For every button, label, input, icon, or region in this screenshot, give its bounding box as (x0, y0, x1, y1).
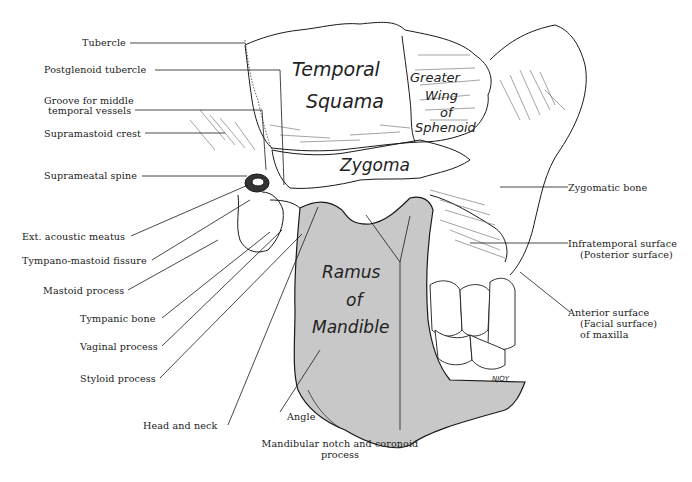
label-angle: Angle (287, 411, 316, 422)
label-infratemporal-line1: Infratemporal surface (568, 238, 677, 249)
label-supramastoid-crest: Supramastoid crest (44, 128, 141, 139)
ramus-label-line2: of (346, 290, 362, 310)
ramus-label-line1: Ramus (322, 262, 380, 282)
ramus-label-line3: Mandible (312, 317, 389, 337)
label-infratemporal-line2: (Posterior surface) (580, 249, 673, 260)
label-mandibular-notch-line1: Mandibular notch and coronoid (248, 438, 432, 449)
greater-wing-label-line2: Wing (425, 88, 458, 103)
zygoma-label: Zygoma (340, 155, 410, 175)
label-styloid-process: Styloid process (80, 373, 156, 384)
label-vaginal-process: Vaginal process (80, 341, 158, 352)
label-tubercle: Tubercle (82, 37, 126, 48)
label-mandibular-notch-line2: process (248, 449, 432, 460)
label-tympano-mastoid-fissure: Tympano-mastoid fissure (22, 255, 147, 266)
label-suprameatal-spine: Suprameatal spine (44, 170, 137, 181)
artist-signature: NJOY (492, 375, 509, 383)
greater-wing-label-line1: Greater (410, 70, 460, 85)
greater-wing-label-line4: Sphenoid (415, 120, 476, 135)
label-zygomatic-bone: Zygomatic bone (568, 182, 647, 193)
label-anterior-surface-line3: of maxilla (580, 329, 629, 340)
temporal-squama-label-line1: Temporal (292, 58, 380, 80)
label-tympanic-bone: Tympanic bone (80, 313, 156, 324)
greater-wing-label-line3: of (440, 105, 453, 120)
sphenoid-suture (402, 36, 415, 142)
temporal-squama-label-line2: Squama (306, 90, 384, 112)
label-groove-line2: temporal vessels (48, 105, 131, 116)
label-head-and-neck: Head and neck (143, 420, 217, 431)
label-mastoid-process: Mastoid process (43, 285, 124, 296)
label-postglenoid-tubercle: Postglenoid tubercle (44, 64, 146, 75)
label-anterior-surface-line1: Anterior surface (568, 307, 649, 318)
label-ext-acoustic-meatus: Ext. acoustic meatus (22, 231, 125, 242)
anatomy-figure: Temporal Squama Greater Wing of Sphenoid… (0, 0, 692, 482)
label-anterior-surface-line2: (Facial surface) (580, 318, 657, 329)
